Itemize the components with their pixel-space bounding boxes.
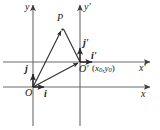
unit-vector-i-label: i: [44, 89, 47, 99]
x-axis-label: x: [141, 89, 145, 99]
figure-canvas: y y' x x' P O O' (x0,y0) i j i' j': [0, 0, 160, 130]
unit-vector-i-prime-label: i': [91, 51, 97, 61]
unit-vector-j-prime-label: j': [83, 38, 89, 48]
y-prime-axis-label: y': [84, 2, 91, 12]
origin-O-label: O: [25, 88, 32, 98]
vector-OP: [33, 31, 61, 87]
x-prime-axis-label: x': [139, 63, 146, 73]
vector-OOprime: [33, 63, 78, 87]
unit-vector-j-label: j: [25, 64, 28, 74]
origin-prime-coordinates: (x0,y0): [92, 64, 115, 74]
y-axis-label: y: [25, 2, 29, 12]
coord-paren-close: ): [112, 63, 115, 73]
origin-O-prime-label: O': [79, 64, 88, 74]
vector-OprimeP: [64, 29, 81, 62]
point-P-label: P: [57, 13, 63, 23]
point-P-dot: [61, 28, 63, 30]
